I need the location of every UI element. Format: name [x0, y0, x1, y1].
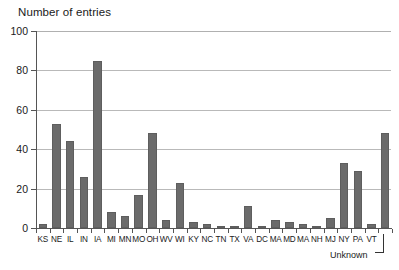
y-tick-mark-40 — [31, 149, 36, 150]
bar — [244, 206, 252, 228]
bar — [312, 226, 320, 228]
y-tick-mark-80 — [31, 70, 36, 71]
bar — [271, 220, 279, 228]
x-tick-label-ky-11: KY — [188, 235, 199, 244]
x-tick-label-mn-6: MN — [119, 235, 131, 244]
x-tick-mark — [269, 229, 270, 233]
bar — [299, 224, 307, 228]
x-tick-label-ma-19: MA — [297, 235, 309, 244]
x-tick-mark — [378, 229, 379, 233]
bar — [354, 171, 362, 228]
unknown-bracket-leader — [375, 234, 384, 253]
bar — [326, 218, 334, 228]
bar — [93, 61, 101, 228]
x-tick-label-mj-21: MJ — [325, 235, 336, 244]
y-tick-label-100: 100 — [10, 25, 28, 37]
x-tick-mark — [132, 229, 133, 233]
bar — [52, 124, 60, 228]
x-tick-label-il-2: IL — [67, 235, 73, 244]
x-tick-label-ks-0: KS — [38, 235, 49, 244]
y-tick-mark-20 — [31, 189, 36, 190]
x-tick-label-ia-4: IA — [94, 235, 101, 244]
x-axis-tick-labels: KSNEILINIAMIMNMOOHWVWIKYNCTNTXVADCMAMDMA… — [36, 229, 392, 269]
x-tick-label-wv-9: WV — [160, 235, 173, 244]
x-tick-label-mi-5: MI — [107, 235, 116, 244]
y-tick-label-40: 40 — [16, 143, 28, 155]
y-tick-label-60: 60 — [16, 104, 28, 116]
bar-chart: Number of entries 020406080100 KSNEILINI… — [0, 0, 399, 270]
bar — [230, 226, 238, 228]
x-tick-mark — [91, 229, 92, 233]
x-tick-mark — [173, 229, 174, 233]
x-tick-label-mo-7: MO — [132, 235, 145, 244]
unknown-annotation-label: Unknown — [330, 250, 368, 260]
bar — [340, 163, 348, 228]
x-tick-label-pa-23: PA — [353, 235, 363, 244]
x-tick-label-nc-12: NC — [201, 235, 212, 244]
bar — [258, 226, 266, 228]
x-tick-label-nh-20: NH — [311, 235, 322, 244]
x-tick-label-wi-10: WI — [175, 235, 185, 244]
bar — [134, 195, 142, 228]
x-tick-mark — [392, 229, 393, 233]
x-tick-mark — [118, 229, 119, 233]
bar — [189, 222, 197, 228]
x-tick-label-ne-1: NE — [51, 235, 62, 244]
y-tick-label-80: 80 — [16, 64, 28, 76]
bar — [381, 133, 389, 228]
x-tick-mark — [63, 229, 64, 233]
bar — [203, 224, 211, 228]
x-tick-label-md-18: MD — [283, 235, 295, 244]
x-tick-mark — [296, 229, 297, 233]
x-tick-mark — [214, 229, 215, 233]
x-tick-mark — [365, 229, 366, 233]
x-tick-label-in-3: IN — [80, 235, 88, 244]
bar — [217, 226, 225, 228]
bar — [176, 183, 184, 228]
y-axis-tick-labels: 020406080100 — [0, 0, 28, 270]
bar — [148, 133, 156, 228]
x-tick-mark — [159, 229, 160, 233]
x-tick-label-ma-17: MA — [270, 235, 282, 244]
y-tick-mark-100 — [31, 31, 36, 32]
x-tick-mark — [187, 229, 188, 233]
x-tick-mark — [36, 229, 37, 233]
bar — [285, 222, 293, 228]
bar — [367, 224, 375, 228]
y-tick-mark-60 — [31, 110, 36, 111]
x-tick-mark — [241, 229, 242, 233]
x-tick-mark — [77, 229, 78, 233]
x-tick-mark — [351, 229, 352, 233]
x-tick-label-oh-8: OH — [146, 235, 158, 244]
x-tick-mark — [337, 229, 338, 233]
x-tick-mark — [324, 229, 325, 233]
bar — [162, 220, 170, 228]
bar — [39, 224, 47, 228]
bar — [66, 141, 74, 228]
bars-layer — [36, 31, 392, 228]
y-axis-title: Number of entries — [18, 6, 111, 18]
x-tick-mark — [282, 229, 283, 233]
x-tick-label-tn-13: TN — [216, 235, 227, 244]
x-tick-mark — [146, 229, 147, 233]
bar — [107, 212, 115, 228]
x-tick-mark — [310, 229, 311, 233]
x-tick-mark — [255, 229, 256, 233]
x-tick-mark — [228, 229, 229, 233]
x-tick-label-dc-16: DC — [256, 235, 267, 244]
x-tick-label-ny-22: NY — [339, 235, 350, 244]
y-tick-mark-0 — [31, 228, 36, 229]
x-tick-mark — [200, 229, 201, 233]
bar — [80, 177, 88, 228]
bar — [121, 216, 129, 228]
x-tick-label-va-15: VA — [243, 235, 253, 244]
x-tick-mark — [50, 229, 51, 233]
y-tick-label-0: 0 — [22, 222, 28, 234]
x-tick-label-tx-14: TX — [230, 235, 240, 244]
x-tick-mark — [104, 229, 105, 233]
y-tick-label-20: 20 — [16, 183, 28, 195]
